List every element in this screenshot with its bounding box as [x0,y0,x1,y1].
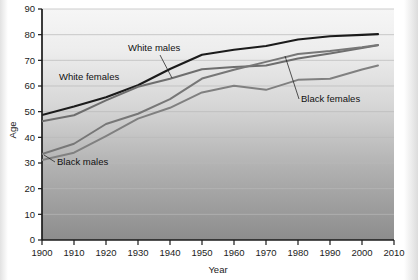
x-tick-label: 1900 [31,247,52,258]
y-tick-label: 70 [24,55,35,66]
y-tick-label: 30 [24,157,35,168]
x-tick-label: 1950 [191,247,212,258]
series-annotation-label: White females [59,71,119,82]
x-tick-label: 1970 [255,247,276,258]
y-axis-title: Age [7,122,18,139]
y-tick-label: 40 [24,132,35,143]
x-tick-label: 1920 [95,247,116,258]
series-annotation-label: Black males [57,156,108,167]
x-tick-label: 1940 [159,247,180,258]
y-tick-label: 60 [24,80,35,91]
series-annotation-label: Black females [301,93,360,104]
plot-area-background [42,9,394,240]
y-tick-label: 10 [24,209,35,220]
x-tick-label: 1990 [319,247,340,258]
y-axis: 0102030405060708090 [24,3,42,245]
y-tick-label: 90 [24,3,35,14]
y-tick-label: 20 [24,183,35,194]
chart-figure: 0102030405060708090 19001910192019301940… [0,0,418,280]
y-tick-label: 80 [24,29,35,40]
x-tick-label: 2000 [351,247,372,258]
x-tick-label: 2010 [383,247,404,258]
x-axis: 1900191019201930194019501960197019801990… [31,240,404,258]
y-tick-label: 50 [24,106,35,117]
x-tick-label: 1910 [63,247,84,258]
x-tick-label: 1930 [127,247,148,258]
x-tick-label: 1960 [223,247,244,258]
y-tick-label: 0 [30,234,35,245]
life-expectancy-line-chart: 0102030405060708090 19001910192019301940… [0,0,418,280]
x-axis-title: Year [208,264,227,275]
series-annotation-label: White males [128,42,181,53]
x-tick-label: 1980 [287,247,308,258]
